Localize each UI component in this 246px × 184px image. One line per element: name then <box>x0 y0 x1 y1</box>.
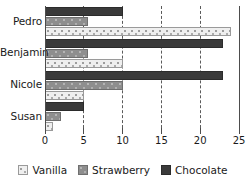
gridline-20 <box>200 6 201 133</box>
legend-item-chocolate[interactable]: Chocolate <box>161 165 228 176</box>
legend-item-vanilla[interactable]: Vanilla <box>18 165 67 176</box>
x-tick-25 <box>239 128 240 134</box>
category-label-benjamin: Benjamin <box>0 47 42 58</box>
legend-item-strawberry[interactable]: Strawberry <box>78 165 150 176</box>
x-tick-0 <box>45 128 46 134</box>
legend-label-chocolate: Chocolate <box>175 165 228 176</box>
x-tick-label-5: 5 <box>73 136 95 146</box>
plot-area: PedroBenjaminNicoleSusan 0510152025 <box>0 0 246 150</box>
gridline-10 <box>122 6 123 133</box>
bar-pedro-vanilla <box>45 27 231 36</box>
bar-nicole-chocolate <box>45 71 223 80</box>
legend-label-vanilla: Vanilla <box>32 165 67 176</box>
bar-susan-vanilla <box>45 122 53 131</box>
category-label-pedro: Pedro <box>0 16 42 27</box>
x-axis-line <box>45 133 240 134</box>
bar-pedro-chocolate <box>45 7 123 16</box>
x-tick-20 <box>200 128 201 134</box>
x-tick-label-25: 25 <box>228 136 246 146</box>
bar-nicole-vanilla <box>45 91 84 100</box>
x-tick-label-15: 15 <box>150 136 172 146</box>
legend-swatch-strawberry-icon <box>78 165 88 175</box>
x-tick-10 <box>122 128 123 134</box>
x-tick-label-10: 10 <box>112 136 134 146</box>
chart-legend: VanillaStrawberryChocolate <box>0 160 246 180</box>
legend-label-strawberry: Strawberry <box>92 165 150 176</box>
gridline-15 <box>161 6 162 133</box>
bar-benjamin-strawberry <box>45 49 88 58</box>
bar-benjamin-vanilla <box>45 59 123 68</box>
legend-swatch-vanilla-icon <box>18 165 28 175</box>
bar-susan-strawberry <box>45 112 61 121</box>
x-tick-15 <box>161 128 162 134</box>
category-label-susan: Susan <box>0 111 42 122</box>
x-tick-5 <box>83 128 84 134</box>
legend-swatch-chocolate-icon <box>161 165 171 175</box>
y-axis-line <box>45 6 46 133</box>
x-tick-label-0: 0 <box>34 136 56 146</box>
category-label-nicole: Nicole <box>0 79 42 90</box>
bar-benjamin-chocolate <box>45 39 223 48</box>
x-tick-label-20: 20 <box>189 136 211 146</box>
plot-right-border <box>239 6 240 133</box>
bar-chart: PedroBenjaminNicoleSusan 0510152025 Vani… <box>0 0 246 184</box>
bar-nicole-strawberry <box>45 81 123 90</box>
bar-pedro-strawberry <box>45 17 88 26</box>
bar-susan-chocolate <box>45 102 84 111</box>
